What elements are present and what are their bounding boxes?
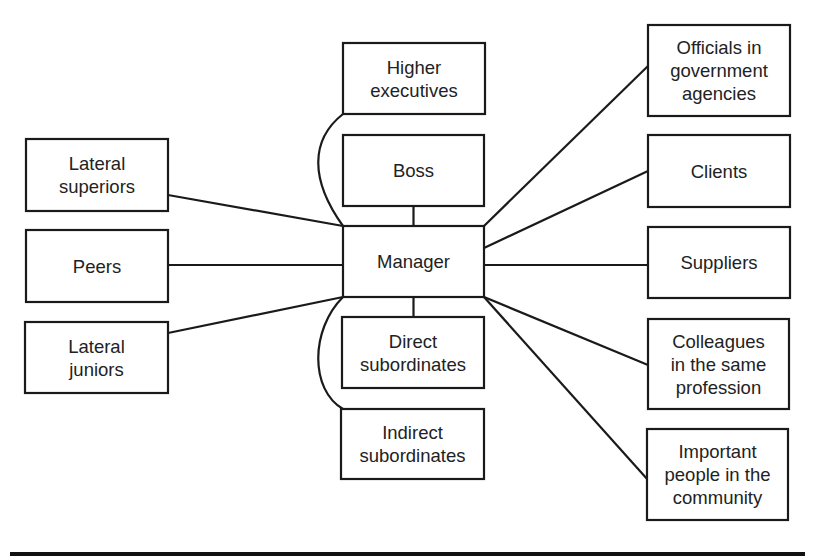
node-label-indirect-subordinates: Indirect	[382, 422, 443, 443]
node-label-colleagues: Colleagues	[672, 331, 765, 352]
connector-manager-to-lateral-juniors	[168, 297, 343, 333]
node-label-boss: Boss	[393, 160, 434, 181]
node-box-indirect-subordinates	[341, 409, 484, 479]
connector-manager-to-lateral-superiors	[168, 195, 343, 226]
node-box-direct-subordinates	[342, 317, 484, 388]
node-lateral-juniors: Lateraljuniors	[25, 322, 168, 393]
node-lateral-superiors: Lateralsuperiors	[26, 139, 168, 211]
connector-manager-to-indirect-subordinates	[318, 297, 343, 409]
node-label-lateral-juniors: juniors	[68, 359, 124, 380]
node-label-direct-subordinates: Direct	[389, 331, 437, 352]
node-label-indirect-subordinates: subordinates	[360, 445, 466, 466]
node-important-people: Importantpeople in thecommunity	[647, 429, 788, 520]
connector-manager-to-colleagues	[484, 297, 648, 365]
node-suppliers: Suppliers	[648, 227, 790, 298]
node-officials: Officials ingovernmentagencies	[648, 25, 790, 116]
node-label-important-people: community	[673, 487, 763, 508]
node-label-important-people: people in the	[665, 464, 771, 485]
node-label-colleagues: in the same	[671, 354, 767, 375]
node-boxes: ManagerHigherexecutivesBossDirectsubordi…	[25, 25, 790, 520]
node-label-higher-executives: Higher	[387, 57, 442, 78]
node-boss: Boss	[343, 135, 484, 206]
connector-manager-to-important-people	[484, 297, 648, 480]
node-label-officials: Officials in	[677, 37, 762, 58]
node-label-clients: Clients	[691, 161, 748, 182]
node-box-lateral-superiors	[26, 139, 168, 211]
node-peers: Peers	[26, 230, 168, 302]
node-indirect-subordinates: Indirectsubordinates	[341, 409, 484, 479]
node-box-lateral-juniors	[25, 322, 168, 393]
node-label-colleagues: profession	[676, 377, 761, 398]
node-box-higher-executives	[343, 43, 485, 114]
node-direct-subordinates: Directsubordinates	[342, 317, 484, 388]
node-label-lateral-juniors: Lateral	[68, 336, 125, 357]
node-label-officials: government	[670, 60, 768, 81]
node-label-suppliers: Suppliers	[680, 252, 757, 273]
node-label-direct-subordinates: subordinates	[360, 354, 466, 375]
connector-manager-to-clients	[484, 171, 648, 248]
node-higher-executives: Higherexecutives	[343, 43, 485, 114]
node-label-manager: Manager	[377, 251, 450, 272]
connector-manager-to-officials	[484, 66, 648, 226]
manager-network-diagram: ManagerHigherexecutivesBossDirectsubordi…	[0, 0, 815, 556]
node-label-important-people: Important	[678, 441, 756, 462]
connector-manager-to-higher-executives	[318, 114, 343, 226]
node-colleagues: Colleaguesin the sameprofession	[648, 319, 789, 409]
node-label-officials: agencies	[682, 83, 756, 104]
node-label-lateral-superiors: Lateral	[69, 153, 126, 174]
node-clients: Clients	[648, 135, 790, 207]
node-manager: Manager	[343, 226, 484, 297]
bottom-rule	[10, 552, 805, 556]
node-label-lateral-superiors: superiors	[59, 176, 135, 197]
node-label-higher-executives: executives	[370, 80, 457, 101]
node-label-peers: Peers	[73, 256, 121, 277]
